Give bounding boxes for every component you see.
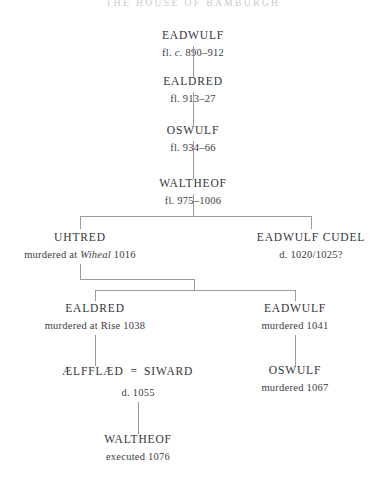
connector-drop-eadwulf2 [295, 290, 296, 301]
node-name: EADWULF [261, 303, 328, 315]
node-name: EALDRED [163, 76, 223, 88]
connector-drop-cudel [311, 216, 312, 229]
node-detail: executed 1076 [104, 452, 172, 463]
node-ealdred-1038: EALDRED murdered at Rise 1038 [45, 303, 146, 331]
node-name: OSWULF [261, 365, 328, 377]
connector-siward-to-waltheof2 [138, 402, 139, 434]
node-detail: murdered at Rise 1038 [45, 321, 146, 332]
node-name: UHTRED [24, 232, 136, 244]
connector-uhtred-offset-bar [80, 279, 195, 280]
node-detail: murdered 1067 [261, 383, 328, 394]
node-detail-siward: d. 1055 [121, 387, 154, 398]
node-name: WALTHEOF [104, 434, 172, 446]
node-uhtred: UHTRED murdered at Wiheal 1016 [24, 232, 136, 260]
connector-ealdred-to-oswulf [193, 92, 194, 126]
chart-title: THE HOUSE OF BAMBURGH [0, 0, 386, 8]
node-name-aelfflaed: ÆLFFLÆD [62, 365, 124, 377]
connector-uhtred-stem [80, 264, 81, 279]
node-name: EALDRED [45, 303, 146, 315]
connector-waltheof-stem [193, 194, 194, 216]
node-name: EADWULF CUDEL [257, 232, 365, 244]
connector-ealdred2-to-aelfflaed [95, 335, 96, 366]
node-name: EADWULF [162, 30, 224, 42]
connector-drop-ealdred2 [95, 290, 96, 301]
node-name: OSWULF [167, 125, 219, 137]
connector-oswulf-to-waltheof [193, 141, 194, 179]
node-detail: murdered 1041 [261, 321, 328, 332]
node-waltheof-1076: WALTHEOF executed 1076 [104, 434, 172, 462]
node-detail: murdered at Wiheal 1016 [24, 250, 136, 261]
node-detail: d. 1020/1025? [257, 250, 365, 261]
node-oswulf-1067: OSWULF murdered 1067 [261, 365, 328, 393]
connector-eadwulf-to-ealdred [193, 46, 194, 77]
node-eadwulf-cudel: EADWULF CUDEL d. 1020/1025? [257, 232, 365, 260]
connector-uhtred-crossbar [95, 290, 295, 291]
marriage-equals-icon: = [124, 365, 145, 377]
node-aelfflaed-siward-marriage: ÆLFFLÆD=SIWARD [62, 365, 193, 377]
connector-uhtred-descend [194, 279, 195, 290]
connector-waltheof-crossbar [80, 216, 312, 217]
connector-drop-uhtred [80, 216, 81, 229]
connector-eadwulf2-to-oswulf2 [295, 335, 296, 366]
node-name-siward: SIWARD [144, 365, 193, 377]
genealogy-chart: THE HOUSE OF BAMBURGH EADWULF fl. c. 890… [0, 0, 386, 477]
node-eadwulf-1041: EADWULF murdered 1041 [261, 303, 328, 331]
node-name: WALTHEOF [159, 178, 227, 190]
